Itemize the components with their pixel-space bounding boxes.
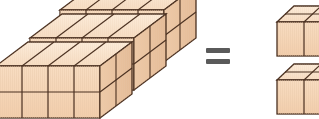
slab-front [0,42,132,118]
equals-bar-top [206,48,230,53]
block-upper [277,6,319,56]
diagram-canvas [0,0,319,119]
cube-diagram-svg [0,0,319,119]
equals-bar-bottom [206,59,230,64]
equals-sign [206,40,230,72]
block-lower [277,64,319,114]
